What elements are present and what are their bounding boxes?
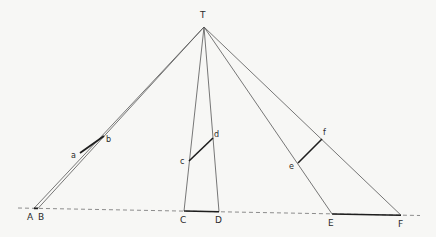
- label-c: c: [180, 157, 184, 166]
- label-b: b: [106, 135, 111, 144]
- segment-EF: [332, 214, 401, 215]
- label-T: T: [199, 10, 206, 20]
- segment-ef: [298, 139, 322, 163]
- label-f: f: [323, 128, 326, 137]
- ray-TB: [38, 27, 204, 208]
- ray-TC: [184, 27, 204, 211]
- label-C: C: [180, 215, 186, 225]
- label-A: A: [27, 212, 34, 222]
- label-a: a: [71, 151, 76, 160]
- label-E: E: [328, 218, 334, 228]
- ray-TA: [34, 27, 204, 208]
- perspective-diagram: T A B C D E F a b c d e f: [0, 0, 436, 237]
- segment-ab: [80, 136, 104, 153]
- label-d: d: [214, 130, 219, 139]
- label-F: F: [398, 219, 403, 229]
- ray-TF: [204, 27, 401, 215]
- segment-CD: [184, 211, 219, 212]
- segment-cd: [189, 138, 213, 161]
- label-e: e: [289, 162, 294, 171]
- label-B: B: [38, 212, 44, 222]
- ray-TD: [204, 27, 219, 212]
- label-D: D: [215, 215, 222, 225]
- ray-TE: [204, 27, 332, 214]
